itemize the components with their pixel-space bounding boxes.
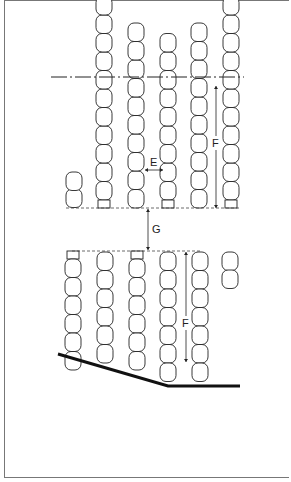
seat [129, 352, 145, 371]
seat [129, 315, 145, 334]
seat [160, 126, 176, 145]
seat [65, 278, 81, 297]
aisle-end-marker [98, 200, 110, 208]
seat [223, 34, 239, 53]
seating-diagram: E F G F [0, 0, 291, 482]
seat [191, 60, 207, 79]
seat [65, 315, 81, 334]
seat [96, 0, 112, 15]
seat [222, 270, 238, 289]
seat [129, 259, 145, 278]
seat [192, 363, 208, 382]
seat [96, 163, 112, 182]
seat [160, 89, 176, 108]
seat [129, 296, 145, 315]
seat [191, 97, 207, 116]
stage-wall [58, 354, 240, 386]
seat [128, 190, 144, 209]
seat [96, 126, 112, 145]
seat [192, 326, 208, 345]
seat [96, 34, 112, 53]
label-f-lower: F [182, 317, 189, 329]
seat [97, 308, 113, 327]
seat [160, 363, 176, 382]
seat [65, 333, 81, 352]
seat [128, 171, 144, 190]
seat [192, 252, 208, 271]
seat [160, 289, 176, 308]
seat [128, 79, 144, 98]
seat [160, 108, 176, 127]
seat [191, 153, 207, 172]
seat [160, 308, 176, 327]
seat [129, 333, 145, 352]
seat [192, 271, 208, 290]
seat [97, 345, 113, 364]
aisle-end-marker [225, 200, 237, 208]
seat [128, 42, 144, 61]
seat [66, 189, 82, 208]
seat [160, 326, 176, 345]
seat [129, 278, 145, 297]
seat [160, 52, 176, 71]
seat [128, 153, 144, 172]
seat [223, 163, 239, 182]
seat [128, 60, 144, 79]
aisle-end-marker [131, 251, 143, 259]
aisle-end-marker [162, 200, 174, 208]
seat [96, 182, 112, 201]
seat [160, 34, 176, 53]
seat [191, 171, 207, 190]
seat [96, 15, 112, 34]
seat [191, 79, 207, 98]
seat [192, 345, 208, 364]
seat [97, 252, 113, 271]
seat [223, 182, 239, 201]
aisle-end-marker [67, 251, 79, 259]
seat [160, 345, 176, 364]
seat [96, 89, 112, 108]
seat [223, 15, 239, 34]
seat [128, 23, 144, 42]
seat [191, 23, 207, 42]
seat [128, 116, 144, 135]
seat [160, 71, 176, 90]
seat [160, 145, 176, 164]
seat [191, 190, 207, 209]
seat [222, 252, 238, 271]
seat [97, 289, 113, 308]
label-f-upper: F [212, 137, 219, 149]
seat [96, 145, 112, 164]
seat [65, 296, 81, 315]
seat [192, 308, 208, 327]
seat [223, 145, 239, 164]
seat [223, 0, 239, 15]
seat [160, 252, 176, 271]
seat [96, 52, 112, 71]
seat [97, 326, 113, 345]
seat [191, 116, 207, 135]
seat [160, 271, 176, 290]
seat [223, 126, 239, 145]
seat [192, 289, 208, 308]
label-e: E [150, 156, 157, 168]
seat [191, 134, 207, 153]
seat [160, 163, 176, 182]
seat [96, 108, 112, 127]
seat [223, 89, 239, 108]
seat [160, 182, 176, 201]
seat [66, 172, 82, 191]
seat [97, 271, 113, 290]
seat [128, 97, 144, 116]
seat [223, 108, 239, 127]
seat [65, 259, 81, 278]
seat-rows [65, 0, 239, 382]
seat [191, 42, 207, 61]
seat [223, 71, 239, 90]
label-g: G [152, 223, 161, 235]
seat [223, 52, 239, 71]
seat [128, 134, 144, 153]
seat [96, 71, 112, 90]
